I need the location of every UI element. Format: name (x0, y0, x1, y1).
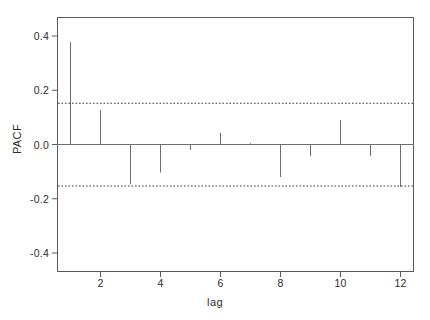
chart-canvas (0, 0, 430, 320)
x-axis-tick-label: 4 (146, 278, 176, 289)
x-axis-tick-label: 12 (386, 278, 416, 289)
x-axis-tick-label: 2 (86, 278, 116, 289)
x-axis-tick-label: 8 (266, 278, 296, 289)
x-axis-ticks (101, 272, 401, 277)
pacf-bars (71, 42, 401, 187)
x-axis-tick-label: 10 (326, 278, 356, 289)
x-axis-tick-label-list: 24681012 (0, 278, 430, 294)
y-axis-tick-label: 0.2 (15, 85, 49, 95)
pacf-chart-figure: -0.4-0.20.00.20.4 24681012 PACF lag (0, 0, 430, 320)
y-axis-ticks (52, 36, 57, 253)
x-axis-tick-label: 6 (206, 278, 236, 289)
y-axis-title: PACF (11, 109, 23, 169)
y-axis-tick-label: -0.4 (15, 248, 49, 258)
y-axis-tick-label: -0.2 (15, 194, 49, 204)
x-axis-title: lag (0, 296, 430, 308)
y-axis-tick-label: 0.4 (15, 31, 49, 41)
